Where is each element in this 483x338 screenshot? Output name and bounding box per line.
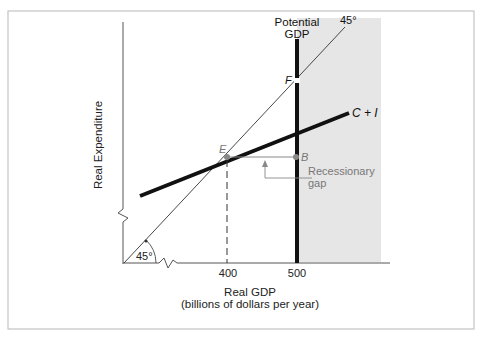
label-c-plus-i: C + I bbox=[352, 106, 378, 120]
point-f bbox=[294, 78, 300, 83]
label-b: B bbox=[301, 151, 308, 163]
label-gdp: GDP bbox=[285, 28, 310, 40]
gap-label-line1: Recessionary bbox=[308, 165, 375, 177]
shaded-region bbox=[297, 18, 381, 262]
y-axis bbox=[118, 22, 128, 264]
gap-label-line2: gap bbox=[308, 177, 326, 189]
x-axis-sublabel: (billions of dollars per year) bbox=[181, 298, 319, 310]
label-e: E bbox=[219, 143, 227, 155]
tick-500: 500 bbox=[288, 267, 306, 279]
point-b bbox=[293, 154, 299, 160]
label-potential: Potential bbox=[275, 16, 320, 28]
label-45-origin: 45° bbox=[136, 250, 153, 262]
y-axis-label: Real Expenditure bbox=[92, 101, 104, 189]
diagram-canvas: 45° C + I Potential GDP 45° F E B Recess… bbox=[0, 0, 483, 338]
label-45-top: 45° bbox=[340, 14, 357, 26]
tick-400: 400 bbox=[219, 267, 237, 279]
angle-dot bbox=[145, 240, 148, 243]
x-axis-label: Real GDP bbox=[224, 286, 276, 298]
figure-frame bbox=[8, 11, 474, 329]
gap-arrow-head bbox=[262, 160, 268, 167]
